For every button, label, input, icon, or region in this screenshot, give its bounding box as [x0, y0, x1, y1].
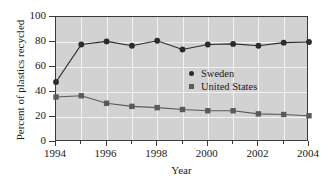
- chart-legend: Sweden United States: [184, 67, 257, 93]
- data-point-united-states: [256, 111, 261, 116]
- series-line-united-states: [56, 96, 309, 116]
- data-point-sweden: [306, 39, 312, 45]
- x-tick-label: 1998: [136, 147, 176, 159]
- y-tick-label: 80: [6, 35, 46, 46]
- data-point-sweden: [154, 38, 160, 44]
- data-point-united-states: [205, 108, 210, 113]
- chart-figure: Percent of plastics recycled 10080604020…: [0, 0, 328, 184]
- data-point-sweden: [53, 79, 59, 85]
- data-point-sweden: [180, 47, 186, 53]
- legend-item-united-states: United States: [184, 80, 257, 93]
- y-tick-label: 0: [6, 135, 46, 146]
- data-point-sweden: [129, 43, 135, 49]
- data-point-united-states: [230, 108, 235, 113]
- legend-label-sweden: Sweden: [198, 67, 234, 80]
- y-axis-title: Percent of plastics recycled: [13, 5, 27, 155]
- x-tick-label: 2002: [237, 147, 277, 159]
- data-point-sweden: [281, 40, 287, 46]
- legend-label-united-states: United States: [198, 80, 257, 93]
- data-point-united-states: [79, 93, 84, 98]
- data-point-united-states: [129, 104, 134, 109]
- circle-marker-icon: [184, 71, 198, 76]
- plot-area: Sweden United States: [55, 16, 308, 141]
- square-marker-icon: [184, 84, 198, 89]
- data-point-united-states: [281, 112, 286, 117]
- series-layer: [56, 17, 309, 142]
- y-tick-label: 20: [6, 110, 46, 121]
- data-point-united-states: [104, 101, 109, 106]
- data-point-sweden: [104, 38, 110, 44]
- x-tick-label: 1994: [35, 147, 75, 159]
- x-tick-label: 1996: [86, 147, 126, 159]
- data-point-sweden: [256, 43, 262, 49]
- x-tick-label: 2000: [187, 147, 227, 159]
- y-tick-label: 40: [6, 85, 46, 96]
- x-axis-title: Year: [55, 164, 308, 176]
- data-point-sweden: [205, 42, 211, 48]
- y-tick-label: 100: [6, 10, 46, 21]
- data-point-united-states: [180, 107, 185, 112]
- y-tick-label: 60: [6, 60, 46, 71]
- data-point-sweden: [230, 41, 236, 47]
- data-point-united-states: [155, 105, 160, 110]
- data-point-united-states: [53, 94, 58, 99]
- legend-item-sweden: Sweden: [184, 67, 257, 80]
- data-point-sweden: [78, 42, 84, 48]
- x-tick-label: 2004: [288, 147, 328, 159]
- data-point-united-states: [306, 113, 311, 118]
